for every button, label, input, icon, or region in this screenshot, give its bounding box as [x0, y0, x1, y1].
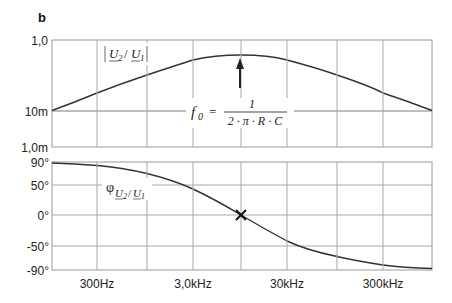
svg-text:=: =	[209, 104, 216, 119]
svg-text:0: 0	[198, 111, 203, 122]
svg-text:/: /	[124, 46, 128, 61]
svg-text:2: 2	[123, 192, 127, 201]
x-tick-3khz: 3,0kHz	[174, 277, 211, 291]
svg-text:1: 1	[141, 192, 145, 201]
svg-text:φ: φ	[106, 180, 114, 195]
x-tick-30khz: 30kHz	[270, 277, 304, 291]
y-tick-50: 50°	[31, 179, 49, 193]
y-tick-1: 1,0	[31, 34, 48, 48]
x-tick-300khz: 300kHz	[363, 277, 404, 291]
y-tick-minus50: -50°	[27, 240, 49, 254]
svg-text:2 · π · R · C: 2 · π · R · C	[228, 114, 283, 128]
panel-label: b	[38, 10, 46, 25]
y-tick-90: 90°	[31, 156, 49, 170]
y-tick-minus90: -90°	[27, 264, 49, 278]
f0-arrow-icon	[236, 58, 244, 88]
svg-text:1: 1	[249, 97, 255, 111]
y-tick-10m: 10m	[25, 105, 48, 119]
phase-plot: φ U 2 / U 1 90° 50° 0° -50° -90°	[27, 156, 432, 278]
y-tick-0: 0°	[38, 209, 50, 223]
x-tick-300hz: 300Hz	[80, 277, 115, 291]
svg-text:1: 1	[140, 53, 145, 63]
y-tick-1m: 1,0m	[21, 141, 48, 155]
bode-chart: b	[0, 0, 452, 303]
svg-text:2: 2	[118, 53, 123, 63]
magnitude-plot: U 2 / U 1 f 0 = 1 2 · π · R · C 1,0 10m …	[21, 34, 432, 155]
